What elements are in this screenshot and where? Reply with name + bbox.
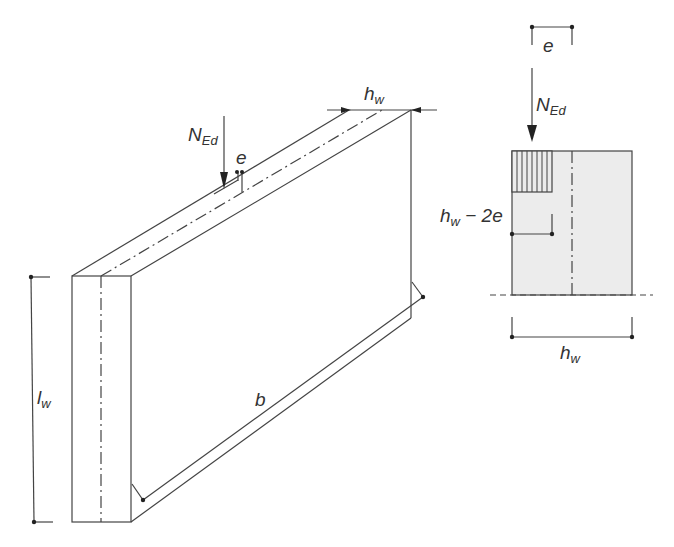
eccentricity-dot-left <box>235 170 239 174</box>
wall-diagram-canvas <box>0 0 674 547</box>
load-label: NEd <box>188 125 218 147</box>
section-hw-label: hw <box>560 343 580 365</box>
lw-label: lw <box>37 388 51 410</box>
b-dot-left <box>141 498 145 502</box>
section-e-dot-left <box>530 25 534 29</box>
wall-top-centerline <box>101 110 382 276</box>
eccentricity-dot-right <box>240 170 244 174</box>
b-tick-right <box>412 282 423 297</box>
effective-width-dot-left <box>510 232 514 236</box>
section-e-label: e <box>543 36 554 55</box>
hw-arrow-right-icon <box>411 107 421 113</box>
wall-isometric <box>29 107 437 524</box>
hw-top-label: hw <box>364 84 384 106</box>
section-hw-dot-left <box>510 335 514 339</box>
section-load-arrowhead-icon <box>527 125 537 142</box>
section-load-label: NEd <box>536 95 566 117</box>
b-tick-left <box>132 484 143 500</box>
b-dot-right <box>421 295 425 299</box>
lw-dot-bottom <box>32 520 36 524</box>
wall-bottom-edge <box>131 318 411 522</box>
lw-dimension-line <box>31 277 34 522</box>
wall-top-front-edge <box>131 110 411 276</box>
hatch-lines <box>517 151 547 192</box>
section-e-dot-right <box>570 25 574 29</box>
effective-width-label: hw − 2e <box>440 206 503 228</box>
eccentricity-label: e <box>236 148 247 167</box>
effective-width-dot-right <box>550 232 554 236</box>
b-label: b <box>255 390 266 409</box>
lw-dot-top <box>29 275 33 279</box>
eccentricity-tick-a <box>214 180 238 194</box>
b-dimension-line <box>143 297 423 500</box>
section-hw-dot-right <box>630 335 634 339</box>
wall-cross-section <box>490 25 653 339</box>
